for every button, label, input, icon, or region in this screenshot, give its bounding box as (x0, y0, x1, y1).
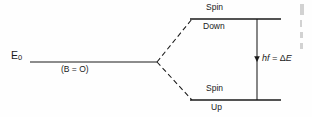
lower-level-label-up: Up (211, 103, 222, 112)
upper-level-label-spin: Spin (206, 3, 223, 12)
lower-level-label-spin: Spin (206, 84, 223, 93)
zero-field-label: (B = O) (61, 65, 89, 74)
transition-energy-prefix: hf = (262, 53, 280, 63)
upper-dashed-split-line (157, 19, 192, 62)
transition-energy-suffix: E (286, 53, 292, 63)
page-edge-scan-artifact (300, 4, 310, 50)
transition-energy-label: hf = ΔE (262, 54, 292, 63)
lower-dashed-split-line (157, 62, 192, 100)
transition-arrow-head-icon (254, 56, 260, 62)
upper-level-label-down: Down (203, 22, 225, 31)
base-energy-label: E0 (11, 50, 22, 62)
figure-canvas: E0 (B = O) Spin Down Spin Up hf = ΔE (0, 0, 312, 117)
